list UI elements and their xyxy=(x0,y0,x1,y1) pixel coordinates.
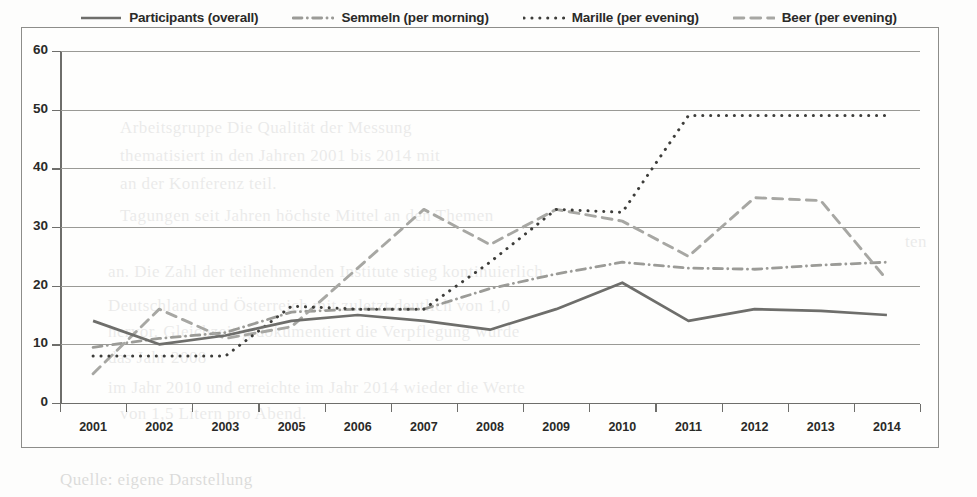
y-tick-50 xyxy=(52,110,61,111)
plot-area xyxy=(60,51,920,403)
series-lines xyxy=(60,51,920,403)
y-tick-30 xyxy=(52,227,61,228)
x-tick-label-2007: 2007 xyxy=(410,420,438,434)
x-tick xyxy=(722,404,723,412)
y-tick-label-50: 50 xyxy=(14,101,48,116)
x-tick xyxy=(126,404,127,412)
series-line-semmeln xyxy=(93,262,887,347)
x-tick xyxy=(391,404,392,412)
series-line-beer xyxy=(93,198,887,374)
x-tick-label-2013: 2013 xyxy=(807,420,835,434)
y-tick-label-10: 10 xyxy=(14,335,48,350)
x-tick xyxy=(325,404,326,412)
x-tick xyxy=(258,404,259,412)
x-tick-label-2006: 2006 xyxy=(344,420,372,434)
x-tick xyxy=(192,404,193,412)
chart-legend: Participants (overall)Semmeln (per morni… xyxy=(0,10,977,25)
y-tick-60 xyxy=(52,51,61,52)
x-tick-label-2009: 2009 xyxy=(542,420,570,434)
x-tick-label-2011: 2011 xyxy=(675,420,702,434)
series-line-marille xyxy=(93,116,887,357)
y-tick-label-0: 0 xyxy=(14,394,48,409)
x-tick xyxy=(60,404,61,412)
legend-semmeln-label: Semmeln (per morning) xyxy=(341,10,488,25)
y-tick-40 xyxy=(52,168,61,169)
legend-marille-swatch-icon xyxy=(523,12,565,24)
x-tick-label-2008: 2008 xyxy=(476,420,504,434)
legend-semmeln[interactable]: Semmeln (per morning) xyxy=(292,10,488,25)
y-tick-label-30: 30 xyxy=(14,218,48,233)
x-tick-label-2012: 2012 xyxy=(741,420,769,434)
y-tick-label-20: 20 xyxy=(14,277,48,292)
y-tick-label-40: 40 xyxy=(14,159,48,174)
y-tick-20 xyxy=(52,286,61,287)
legend-beer-swatch-icon xyxy=(733,12,775,24)
x-tick-label-2010: 2010 xyxy=(608,420,636,434)
x-tick xyxy=(788,404,789,412)
legend-participants-swatch-icon xyxy=(80,12,122,24)
x-tick xyxy=(920,404,921,412)
legend-participants-label: Participants (overall) xyxy=(129,10,258,25)
x-tick-label-2003: 2003 xyxy=(211,420,239,434)
x-tick-label-2002: 2002 xyxy=(145,420,173,434)
x-tick-label-2005: 2005 xyxy=(278,420,306,434)
x-tick xyxy=(655,404,656,412)
x-tick xyxy=(854,404,855,412)
x-tick-label-2001: 2001 xyxy=(79,420,107,434)
y-tick-10 xyxy=(52,344,61,345)
x-tick-label-2014: 2014 xyxy=(873,420,901,434)
x-tick xyxy=(589,404,590,412)
ghost-line: Quelle: eigene Darstellung xyxy=(60,470,253,490)
legend-marille[interactable]: Marille (per evening) xyxy=(523,10,699,25)
y-tick-label-60: 60 xyxy=(14,42,48,57)
y-tick-0 xyxy=(52,403,61,404)
legend-participants[interactable]: Participants (overall) xyxy=(80,10,258,25)
legend-beer-label: Beer (per evening) xyxy=(782,10,897,25)
legend-semmeln-swatch-icon xyxy=(292,12,334,24)
x-tick xyxy=(523,404,524,412)
gridline-0 xyxy=(60,403,920,404)
legend-beer[interactable]: Beer (per evening) xyxy=(733,10,897,25)
x-tick xyxy=(457,404,458,412)
y-axis-labels: 0102030405060 xyxy=(12,0,48,497)
legend-marille-label: Marille (per evening) xyxy=(572,10,699,25)
